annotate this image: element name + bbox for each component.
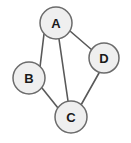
graph-node-label-b: B — [24, 71, 33, 86]
graph-edge-c-d — [81, 73, 99, 105]
graph-edge-a-c — [59, 39, 68, 101]
graph-canvas: ABCD — [0, 0, 131, 143]
graph-node-c: C — [55, 101, 87, 133]
graph-node-a: A — [40, 7, 72, 39]
graph-node-label-c: C — [66, 110, 76, 125]
graph-edge-a-d — [70, 31, 92, 50]
graph-node-label-a: A — [51, 16, 61, 31]
edge-layer — [40, 31, 99, 108]
graph-diagram: ABCD — [0, 0, 131, 143]
graph-edge-b-c — [42, 88, 58, 108]
graph-node-d: D — [89, 43, 119, 73]
graph-node-b: B — [13, 62, 45, 94]
graph-edge-a-b — [40, 34, 44, 67]
graph-node-label-d: D — [99, 51, 108, 66]
node-layer: ABCD — [13, 7, 119, 133]
